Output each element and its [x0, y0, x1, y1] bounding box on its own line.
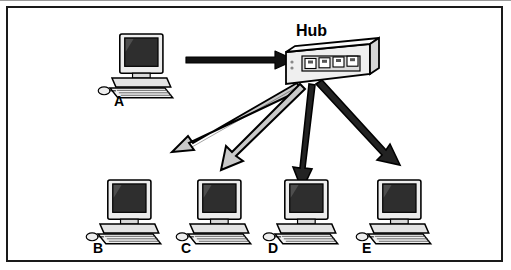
- hub-label: Hub: [296, 22, 327, 40]
- diagram-graphics: [0, 0, 511, 270]
- connection-a-to-hub: [186, 51, 295, 69]
- computer-e: [356, 180, 430, 244]
- node-label-e: E: [362, 240, 372, 256]
- connection-hub-to-e: [316, 80, 400, 165]
- connection-hub-to-c: [221, 84, 305, 170]
- computer-c: [176, 180, 250, 244]
- connection-hub-to-d: [293, 84, 315, 190]
- diagram-canvas: Hub A B C D E: [0, 0, 511, 270]
- node-label-b: B: [93, 240, 104, 256]
- node-label-a: A: [114, 93, 125, 109]
- node-label-c: C: [181, 240, 192, 256]
- computer-b: [86, 180, 160, 244]
- computer-d: [263, 180, 337, 244]
- connection-hub-to-b: [172, 83, 301, 152]
- node-label-d: D: [268, 240, 279, 256]
- hub-device: [286, 38, 379, 84]
- computer-a: [98, 34, 172, 98]
